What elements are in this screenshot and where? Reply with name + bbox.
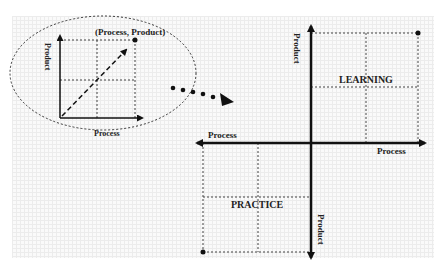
inset-y-label: Product [43, 43, 52, 71]
learning-quadrant-grid [311, 33, 418, 143]
learning-label: LEARNING [339, 74, 393, 85]
practice-corner-dot [201, 250, 206, 255]
practice-quadrant-grid [203, 143, 311, 252]
practice-label: PRACTICE [231, 199, 284, 210]
inset-point-dot [133, 38, 138, 43]
diagram-canvas: (Process, Product) Process Product Produ… [0, 0, 445, 274]
learning-corner-dot [416, 31, 421, 36]
inset-diagonal-arrow [62, 50, 126, 116]
inset-x-label: Process [94, 129, 120, 138]
inset-point-label: (Process, Product) [95, 27, 165, 37]
main-x-right-label: Process [377, 146, 406, 156]
transition-arrow [171, 86, 234, 106]
main-y-top-label: Product [292, 33, 302, 64]
main-x-left-label: Process [208, 130, 237, 140]
main-y-bottom-label: Product [316, 214, 326, 245]
